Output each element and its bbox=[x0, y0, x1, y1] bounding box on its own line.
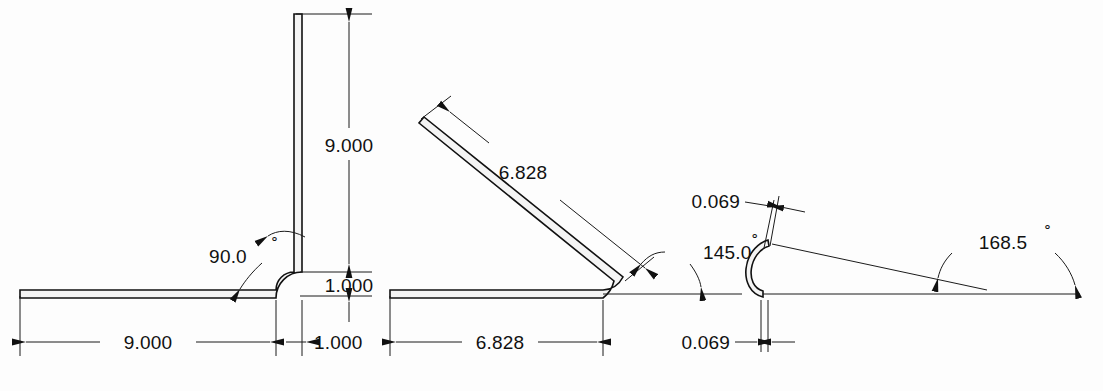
engineering-drawing-canvas: 9.000 1.000 9.000 1.000 90.0 ˚ bbox=[0, 0, 1103, 391]
dim-label-v3-lower-0069: 0.069 bbox=[681, 332, 730, 353]
degree-symbol-168: ˚ bbox=[1045, 223, 1051, 244]
dim-label-v2-horizontal-6828: 6.828 bbox=[476, 332, 525, 353]
dim-label-v1-horizontal-9000: 9.000 bbox=[124, 332, 173, 353]
dim-label-v1-horizontal-1000: 1.000 bbox=[314, 332, 363, 353]
dim-label-v1-vertical-9000: 9.000 bbox=[325, 135, 374, 156]
dim-label-v1-vertical-1000: 1.000 bbox=[325, 275, 374, 296]
angle-label-145: 145.0 bbox=[703, 242, 752, 263]
dim-label-v2-angled-6828: 6.828 bbox=[499, 162, 548, 183]
dim-label-v3-upper-0069: 0.069 bbox=[691, 191, 740, 212]
drawing-svg: 9.000 1.000 9.000 1.000 90.0 ˚ bbox=[0, 0, 1103, 391]
degree-symbol-90: ˚ bbox=[272, 235, 278, 256]
angle-label-90: 90.0 bbox=[209, 246, 247, 267]
angle-label-168: 168.5 bbox=[979, 232, 1028, 253]
